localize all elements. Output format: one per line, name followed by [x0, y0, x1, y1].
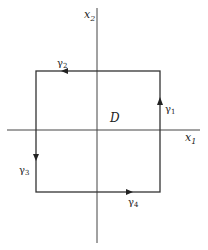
gamma4-arrow-right-icon: [126, 189, 133, 195]
gamma3-label: γ3: [19, 164, 29, 177]
x2-axis-label: x2: [84, 8, 95, 23]
gamma1-arrow-up-icon: [157, 97, 163, 105]
contour-diagram: x2 x1 D γ1 γ2 γ3 γ4: [0, 0, 208, 250]
gamma2-label: γ2: [57, 57, 67, 70]
gamma3-arrow-down-icon: [33, 154, 39, 161]
region-label: D: [109, 111, 120, 125]
x1-axis-label: x1: [185, 131, 196, 146]
gamma4-label: γ4: [128, 196, 139, 209]
gamma1-label: γ1: [165, 103, 175, 116]
contour-rectangle: [36, 71, 160, 192]
